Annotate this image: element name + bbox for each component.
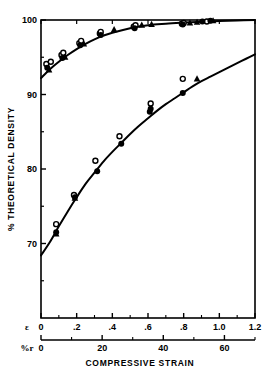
- lower-curve-triangles-triangle: [194, 75, 201, 81]
- upper-curve-filled-filled-circle: [180, 21, 186, 27]
- lower-curve-filled-filled-circle: [94, 168, 100, 174]
- y-axis-tick-label: 90: [27, 90, 37, 100]
- lower-curve-circles-open-circle: [180, 76, 185, 81]
- x-axis-tick-label: 1.2: [249, 322, 262, 332]
- chart-figure: 7080901000.2.4.6.81.01.2ε0204060%rCOMPRE…: [0, 0, 275, 376]
- x-axis-tick-label: .4: [109, 322, 117, 332]
- lower-curve-filled-filled-circle: [148, 106, 154, 112]
- lower-curve-filled-filled-circle: [118, 141, 124, 147]
- x-axis-tick-label: 1.0: [213, 322, 226, 332]
- upper-curve-triangles-triangle: [138, 22, 145, 28]
- secondary-x-tick-label: 20: [97, 343, 107, 353]
- epsilon-axis-symbol: ε: [25, 322, 29, 332]
- y-axis-title: % THEORETICAL DENSITY: [6, 107, 16, 231]
- fit-curve-lower-fit: [41, 54, 255, 255]
- axis-labels-layer: 7080901000.2.4.6.81.01.2ε0204060%rCOMPRE…: [6, 15, 261, 368]
- percent-r-axis-symbol: %r: [21, 343, 34, 353]
- plot-frame: [41, 20, 255, 318]
- x-axis-tick-label: .2: [73, 322, 81, 332]
- secondary-x-tick-label: 40: [158, 343, 168, 353]
- fit-curves-layer: [41, 20, 255, 255]
- lower-curve-circles-open-circle: [117, 134, 122, 139]
- x-axis-tick-label: .6: [144, 322, 152, 332]
- secondary-x-tick-label: 0: [38, 343, 43, 353]
- upper-curve-circles-open-circle: [48, 59, 53, 64]
- data-markers-layer: [44, 17, 217, 236]
- axes-layer: [41, 20, 255, 340]
- x-axis-tick-label: .8: [180, 322, 188, 332]
- upper-curve-filled-filled-circle: [199, 18, 205, 24]
- lower-curve-filled-filled-circle: [180, 90, 186, 96]
- y-axis-tick-label: 100: [22, 15, 37, 25]
- scatter-plot: 7080901000.2.4.6.81.01.2ε0204060%rCOMPRE…: [0, 0, 275, 376]
- upper-curve-filled-filled-circle: [132, 25, 138, 31]
- x-axis-tick-label: 0: [38, 322, 43, 332]
- secondary-x-tick-label: 60: [219, 343, 229, 353]
- y-axis-tick-label: 70: [27, 239, 37, 249]
- lower-curve-circles-open-circle: [148, 101, 153, 106]
- x-axis-title: COMPRESSIVE STRAIN: [86, 358, 195, 368]
- lower-curve-circles-open-circle: [93, 158, 98, 163]
- lower-curve-circles-open-circle: [54, 222, 59, 227]
- upper-curve-filled-filled-circle: [98, 32, 104, 38]
- upper-curve-triangles-triangle: [111, 26, 118, 32]
- y-axis-tick-label: 80: [27, 164, 37, 174]
